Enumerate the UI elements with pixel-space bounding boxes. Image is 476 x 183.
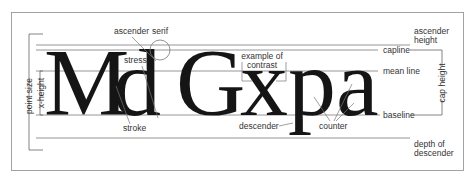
sample-glyphs: M d G x p a [44,29,379,136]
ascender-label: ascender [114,26,149,36]
descender-label: descender [239,121,279,131]
glyph-a: a [336,29,379,136]
glyph-d: d [113,29,161,136]
capline-label: capline [383,45,410,55]
counter-label: counter [319,121,348,131]
glyph-x: x [240,29,288,136]
mean-line-label: mean line [383,66,420,76]
serif-label: serif [152,26,169,36]
depth-of-descender-label-line2: descender [414,148,454,158]
glyph-G: G [176,29,245,136]
point-size-label: point size [24,78,34,114]
ascender-height-label-line2: height [414,35,438,45]
typography-anatomy-diagram: M d G x p a point size x-height ascender… [0,0,476,183]
cap-height-label: cap height [437,63,447,103]
glyph-p: p [288,29,336,136]
x-height-label: x-height [36,77,46,108]
contrast-label-line2: contrast [247,60,278,70]
stress-label: stress [124,55,147,65]
stroke-label: stroke [123,123,146,133]
